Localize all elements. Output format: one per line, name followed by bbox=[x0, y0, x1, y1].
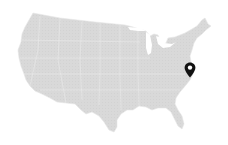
map-pin-icon[interactable] bbox=[184, 62, 196, 78]
us-silhouette bbox=[18, 13, 211, 132]
